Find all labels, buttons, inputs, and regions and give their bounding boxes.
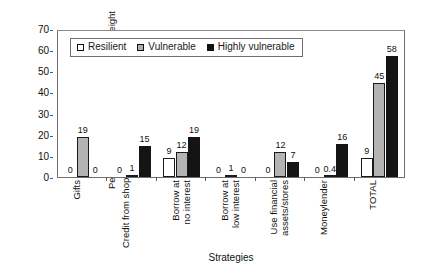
x-category-label: Borrow atno interest <box>170 180 192 248</box>
x-category-label-line: low interest <box>230 180 242 248</box>
y-tick-mark <box>50 115 53 116</box>
bar-value-label: 16 <box>331 133 353 142</box>
y-tick-label: 50 <box>38 67 49 77</box>
bar <box>188 137 200 177</box>
bar <box>225 175 237 177</box>
y-tick-mark <box>50 178 53 179</box>
bar <box>126 175 138 177</box>
bar-value-label: 7 <box>282 151 304 160</box>
y-tick-mark <box>50 30 53 31</box>
x-category-label-line: assets/stores <box>279 180 291 248</box>
y-tick-mark <box>50 51 53 52</box>
y-tick-label: 20 <box>38 131 49 141</box>
plot-area: 0190011591219010012700.41694558 Resilien… <box>57 30 405 178</box>
legend-swatch-highly-vulnerable <box>207 44 214 51</box>
y-tick-mark <box>50 157 53 158</box>
x-category-label-line: Gifts <box>71 180 83 248</box>
x-category-label: Credit from shop <box>120 180 142 248</box>
bar-value-label: 0 <box>84 166 106 175</box>
legend-item-highly-vulnerable: Highly vulnerable <box>207 41 295 53</box>
legend-swatch-resilient <box>77 44 84 51</box>
legend-swatch-vulnerable <box>137 44 144 51</box>
y-tick-label: 70 <box>38 25 49 35</box>
bar <box>386 56 398 177</box>
y-tick-label: 40 <box>38 88 49 98</box>
x-category-label-line: Borrow at <box>170 180 182 248</box>
y-tick-label: 0 <box>43 173 49 183</box>
legend-label-resilient: Resilient <box>88 41 126 53</box>
bar <box>324 175 336 177</box>
x-category-label: Use financialassets/stores <box>268 180 290 248</box>
y-axis-title: Percentage of total illness costs over e… <box>0 0 34 200</box>
bar-value-label: 12 <box>269 141 291 150</box>
x-category-label: TOTAL <box>367 180 389 248</box>
bar-group: 00.416 <box>305 31 354 177</box>
bar <box>287 162 299 177</box>
bar <box>361 158 373 177</box>
bar-value-label: 19 <box>72 126 94 135</box>
y-tick-label: 30 <box>38 110 49 120</box>
x-category-label: Moneylender <box>318 180 340 248</box>
y-axis-ticks: 010203040506070 <box>31 20 53 190</box>
legend-label-highly-vulnerable: Highly vulnerable <box>218 41 295 53</box>
bar-group: 94558 <box>355 31 404 177</box>
bar <box>163 158 175 177</box>
y-tick-label: 10 <box>38 152 49 162</box>
x-category-label-line: Credit from shop <box>120 180 132 248</box>
x-category-label-line: TOTAL <box>367 180 379 248</box>
bar <box>176 152 188 177</box>
x-axis-category-labels: GiftsCredit from shopBorrow atno interes… <box>57 180 405 248</box>
legend-item-vulnerable: Vulnerable <box>137 41 195 53</box>
bar <box>373 83 385 177</box>
bar-value-label: 58 <box>381 45 403 54</box>
x-category-label: Gifts <box>71 180 93 248</box>
y-tick-label: 60 <box>38 46 49 56</box>
x-axis-title: Strategies <box>57 252 405 263</box>
bar <box>336 144 348 177</box>
x-category-label-line: Moneylender <box>318 180 330 248</box>
x-category-label: Borrow atlow interest <box>219 180 241 248</box>
x-category-label-line: no interest <box>181 180 193 248</box>
y-tick-mark <box>50 136 53 137</box>
legend-label-vulnerable: Vulnerable <box>148 41 195 53</box>
legend-item-resilient: Resilient <box>77 41 126 53</box>
y-tick-mark <box>50 93 53 94</box>
chart-legend: Resilient Vulnerable Highly vulnerable <box>70 38 303 57</box>
bar <box>139 146 151 177</box>
bar-value-label: 19 <box>183 126 205 135</box>
bar-value-label: 15 <box>134 135 156 144</box>
y-tick-mark <box>50 72 53 73</box>
bar-value-label: 0 <box>232 166 254 175</box>
